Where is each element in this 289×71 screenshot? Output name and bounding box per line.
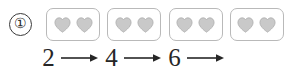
heart-icon	[54, 17, 71, 33]
heart-box	[169, 8, 223, 41]
heart-icon	[115, 17, 132, 33]
item-number-badge: ①	[9, 13, 32, 36]
count-sequence: 2 4 6	[40, 44, 229, 71]
worksheet-item: ①	[0, 0, 289, 71]
heart-box	[230, 8, 284, 41]
heart-icon	[198, 17, 215, 33]
heart-icon	[137, 17, 154, 33]
item-number-label: ①	[14, 17, 27, 31]
sequence-number: 4	[103, 45, 120, 70]
heart-box	[46, 8, 100, 41]
right-arrow-icon	[123, 52, 163, 64]
right-arrow-icon	[186, 52, 226, 64]
heart-icon	[76, 17, 93, 33]
heart-box-row	[46, 8, 284, 41]
sequence-number: 2	[40, 45, 57, 70]
sequence-number: 6	[166, 45, 183, 70]
heart-icon	[259, 17, 276, 33]
heart-icon	[237, 17, 254, 33]
right-arrow-icon	[60, 52, 100, 64]
heart-box	[107, 8, 161, 41]
heart-icon	[176, 17, 193, 33]
